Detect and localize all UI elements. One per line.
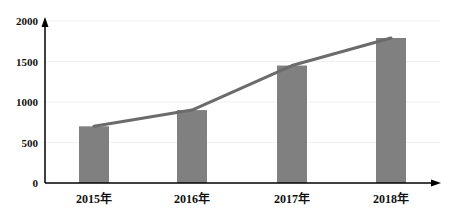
bars bbox=[79, 38, 406, 183]
category-labels: 2015年2016年2017年2018年 bbox=[76, 191, 409, 206]
category-label: 2015年 bbox=[76, 191, 112, 206]
chart: 0500100015002000 2015年2016年2017年2018年 bbox=[0, 0, 457, 217]
y-axis-arrow-icon bbox=[42, 17, 49, 27]
y-tick-labels: 0500100015002000 bbox=[16, 15, 39, 189]
bar bbox=[277, 66, 307, 183]
x-axis-arrow-icon bbox=[431, 180, 441, 187]
category-label: 2018年 bbox=[373, 191, 409, 206]
trend-line bbox=[94, 38, 391, 126]
y-tick-label: 500 bbox=[22, 137, 39, 149]
bar bbox=[79, 126, 109, 183]
category-label: 2017年 bbox=[274, 191, 310, 206]
y-tick-label: 0 bbox=[33, 177, 39, 189]
bar bbox=[376, 38, 406, 183]
bar bbox=[177, 110, 207, 183]
y-tick-label: 1500 bbox=[16, 56, 39, 68]
category-label: 2016年 bbox=[174, 191, 210, 206]
y-tick-label: 1000 bbox=[16, 96, 39, 108]
y-tick-label: 2000 bbox=[16, 15, 39, 27]
